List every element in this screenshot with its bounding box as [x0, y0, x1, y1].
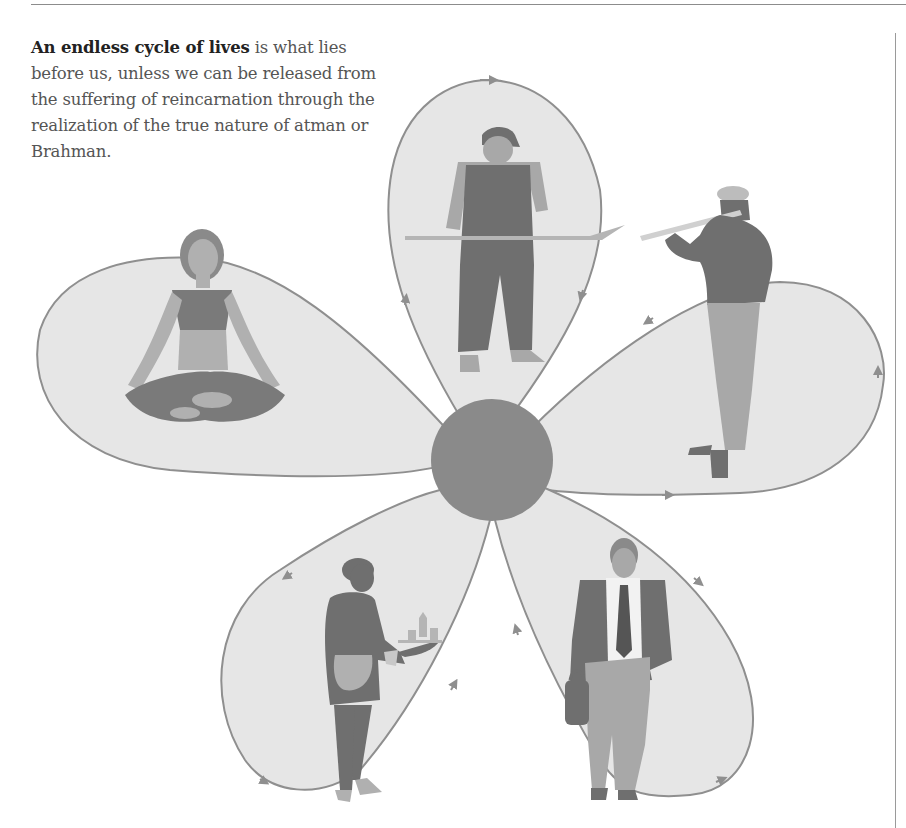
cycle-diagram	[0, 0, 906, 828]
center-circle	[431, 399, 553, 521]
petal-flute	[530, 282, 884, 495]
